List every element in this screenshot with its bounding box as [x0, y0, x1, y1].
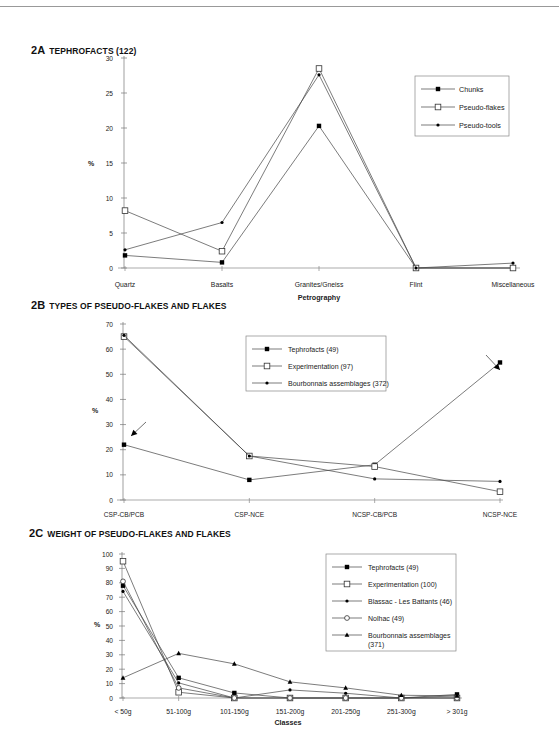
open-square-marker-icon	[435, 104, 441, 110]
legend-label: Experimentation (100)	[368, 581, 437, 589]
filled-square-marker-icon	[123, 253, 127, 257]
filled-dot-marker-icon	[288, 688, 291, 691]
filled-square-marker-icon	[436, 87, 440, 91]
x-category-label: 251-300g	[387, 708, 416, 716]
y-axis-label: %	[88, 160, 95, 167]
legend-label: Nolhac (49)	[368, 615, 404, 623]
y-tick-label: 20	[106, 446, 114, 453]
filled-dot-marker-icon	[511, 262, 514, 265]
y-tick-label: 50	[106, 371, 114, 378]
y-tick-label: 20	[106, 125, 114, 132]
legend-label: Tephrofacts (49)	[288, 346, 339, 354]
chart-legend: Tephrofacts (49)Experimentation (97)Bour…	[246, 336, 389, 391]
filled-dot-marker-icon	[373, 477, 376, 480]
y-tick-label: 25	[106, 90, 114, 97]
series-polyline	[125, 126, 513, 268]
filled-square-marker-icon	[317, 124, 321, 128]
y-tick-label: 100	[102, 551, 113, 558]
legend-label: Chunks	[459, 85, 484, 94]
x-category-label: NCSP-NCE	[483, 511, 518, 518]
y-tick-label: 30	[106, 55, 114, 62]
chart-legend: ChunksPseudo-flakesPseudo-tools	[415, 76, 509, 136]
filled-square-marker-icon	[247, 478, 251, 482]
open-square-marker-icon	[510, 265, 516, 271]
series-line	[123, 124, 515, 270]
y-tick-label: 10	[106, 471, 114, 478]
y-tick-label: 20	[106, 666, 114, 673]
filled-square-marker-icon	[176, 676, 180, 680]
y-tick-label: 60	[106, 346, 114, 353]
open-circle-marker-icon	[232, 696, 237, 701]
open-square-marker-icon	[264, 363, 270, 369]
legend-label: Experimentation (97)	[288, 363, 353, 371]
filled-dot-marker-icon	[436, 123, 439, 126]
y-tick-label: 30	[106, 651, 114, 658]
annotation-arrow-icon	[131, 422, 146, 436]
x-category-label: Miscellaneous	[491, 281, 535, 288]
y-tick-label: 40	[106, 396, 114, 403]
filled-square-marker-icon	[345, 565, 349, 569]
y-tick-label: 60	[106, 608, 114, 615]
open-square-marker-icon	[316, 66, 322, 72]
x-axis-label: Petrography	[298, 293, 340, 302]
x-category-label: Basalts	[211, 281, 234, 288]
filled-dot-marker-icon	[122, 334, 125, 337]
x-category-label: Flint	[410, 281, 423, 288]
filled-dot-marker-icon	[123, 248, 126, 251]
x-category-label: > 301g	[447, 708, 468, 716]
y-axis-label: %	[92, 407, 99, 414]
legend-label: Pseudo-flakes	[459, 103, 505, 112]
open-circle-marker-icon	[343, 696, 348, 701]
x-category-label: 151-200g	[276, 708, 305, 716]
filled-dot-marker-icon	[220, 221, 223, 224]
y-tick-label: 70	[106, 321, 114, 328]
open-square-marker-icon	[344, 581, 350, 587]
filled-dot-marker-icon	[248, 454, 251, 457]
charts-canvas: 051015202530%QuartzBasaltsGranites/Gneis…	[0, 0, 559, 749]
filled-dot-marker-icon	[344, 692, 347, 695]
filled-dot-marker-icon	[414, 266, 417, 269]
chart-2b: 010203040506070%CSP-CB/PCBCSP-NCENCSP-CB…	[92, 321, 518, 519]
filled-dot-marker-icon	[345, 599, 348, 602]
filled-square-marker-icon	[232, 691, 236, 695]
chart-2c: 0102030405060708090100%< 50g51-100g101-1…	[94, 551, 468, 728]
x-category-label: 201-250g	[331, 708, 360, 716]
filled-triangle-marker-icon	[176, 651, 181, 655]
y-tick-label: 30	[106, 421, 114, 428]
y-tick-label: 15	[106, 160, 114, 167]
legend-label: Bourbonnais assemblages	[368, 632, 451, 640]
open-square-marker-icon	[122, 208, 128, 214]
y-tick-label: 10	[106, 680, 114, 687]
y-tick-label: 90	[106, 565, 114, 572]
x-axis-label: Classes	[274, 718, 301, 727]
open-square-marker-icon	[372, 464, 378, 470]
x-category-label: < 50g	[114, 708, 131, 716]
legend-label: Blassac - Les Battants (46)	[368, 598, 452, 606]
y-tick-label: 0	[109, 695, 113, 702]
y-tick-label: 0	[109, 265, 113, 272]
filled-dot-marker-icon	[121, 590, 124, 593]
filled-square-marker-icon	[498, 360, 502, 364]
x-category-label: Quartz	[115, 281, 136, 289]
chart-legend: Tephrofacts (49)Experimentation (100)Bla…	[326, 554, 456, 651]
open-square-marker-icon	[497, 489, 503, 495]
open-circle-marker-icon	[121, 579, 126, 584]
filled-square-marker-icon	[265, 347, 269, 351]
x-category-label: CSP-CB/PCB	[104, 511, 145, 518]
y-axis-label: %	[94, 621, 101, 628]
y-tick-label: 0	[109, 497, 113, 504]
filled-dot-marker-icon	[498, 480, 501, 483]
legend-label: Pseudo-tools	[459, 121, 501, 130]
filled-dot-marker-icon	[265, 381, 268, 384]
legend-label: (371)	[368, 641, 384, 649]
y-tick-label: 10	[106, 195, 114, 202]
x-category-label: CSP-NCE	[234, 511, 264, 518]
x-category-label: 101-150g	[220, 708, 249, 716]
open-circle-marker-icon	[176, 686, 181, 691]
legend-label: Tephrofacts (49)	[368, 564, 419, 572]
y-tick-label: 70	[106, 594, 114, 601]
open-square-marker-icon	[219, 248, 225, 254]
filled-dot-marker-icon	[317, 73, 320, 76]
filled-square-marker-icon	[122, 442, 126, 446]
filled-square-marker-icon	[220, 260, 224, 264]
